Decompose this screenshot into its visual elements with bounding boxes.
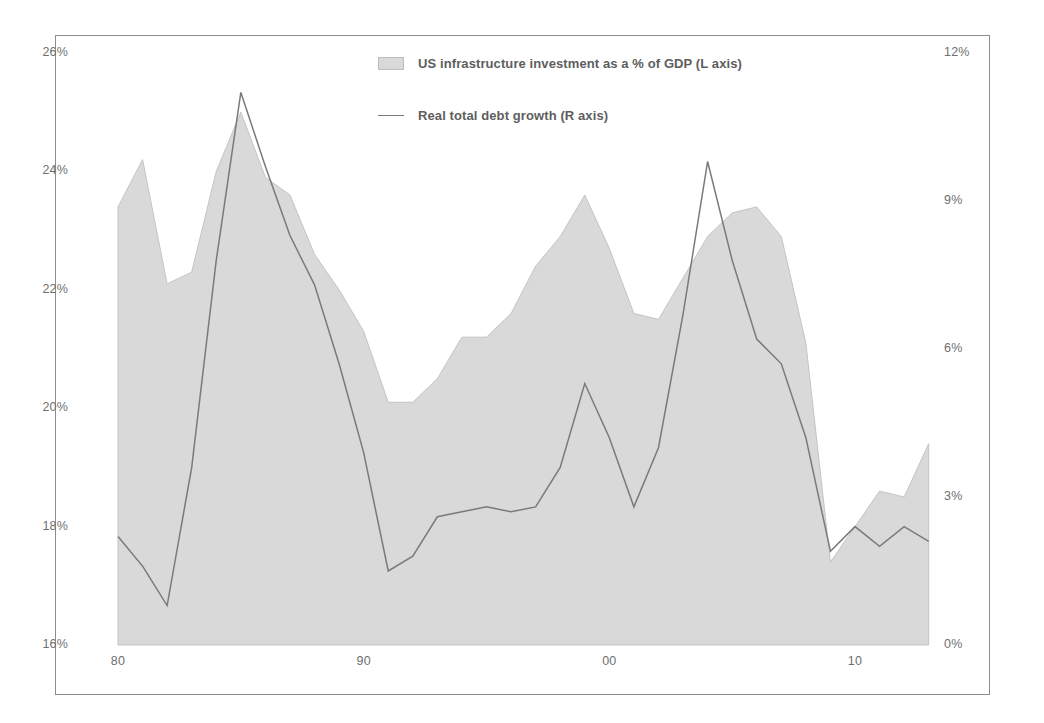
legend-label-infrastructure-investment: US infrastructure investment as a % of G… [418,56,742,71]
y-axis-left-tick-20pct: 20% [22,400,68,414]
y-axis-right-tick-3pct: 3% [944,489,994,503]
area-swatch-icon [378,57,404,70]
x-axis-tick-00: 00 [589,654,629,668]
chart-legend: US infrastructure investment as a % of G… [378,48,808,130]
y-axis-left-tick-16pct: 16% [22,637,68,651]
line-swatch-icon [378,109,404,122]
x-axis-tick-10: 10 [835,654,875,668]
y-axis-right-tick-6pct: 6% [944,341,994,355]
legend-entry-real-total-debt-growth: Real total debt growth (R axis) [378,100,808,130]
y-axis-left-tick-24pct: 24% [22,163,68,177]
y-axis-left-tick-22pct: 22% [22,282,68,296]
legend-label-real-total-debt-growth: Real total debt growth (R axis) [418,108,608,123]
y-axis-right-tick-9pct: 9% [944,193,994,207]
chart-container: 16%18%20%22%24%26% 0%3%6%9%12% 80900010 … [0,0,1044,723]
y-axis-left-tick-26pct: 26% [22,45,68,59]
y-axis-right-tick-12pct: 12% [944,45,994,59]
figure-frame [55,35,990,695]
x-axis-tick-90: 90 [344,654,384,668]
legend-entry-infrastructure-investment: US infrastructure investment as a % of G… [378,48,808,78]
x-axis-tick-80: 80 [98,654,138,668]
y-axis-left-tick-18pct: 18% [22,519,68,533]
y-axis-right-tick-0pct: 0% [944,637,994,651]
